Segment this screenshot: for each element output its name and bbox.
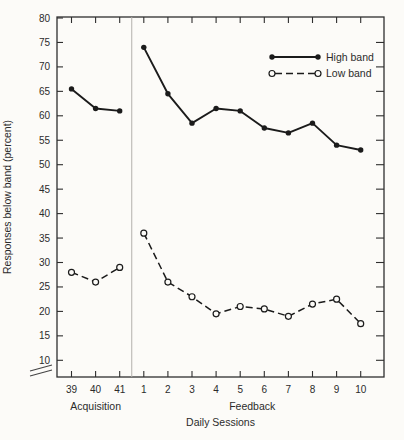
svg-text:20: 20 [39,306,51,317]
x-axis-title: Daily Sessions [186,416,255,428]
svg-text:High band: High band [326,51,374,63]
data-point [69,86,74,91]
data-point [117,108,122,113]
data-point [165,91,170,96]
svg-text:40: 40 [39,208,51,219]
svg-text:6: 6 [262,384,268,395]
svg-text:Low band: Low band [326,67,372,79]
figure: 1015202530354045505560657075803940411234… [0,0,404,440]
svg-text:Responses below band (percent): Responses below band (percent) [1,120,13,274]
data-point [358,147,363,152]
svg-text:80: 80 [39,13,51,24]
svg-text:39: 39 [66,384,78,395]
data-point [189,120,194,125]
data-point [285,313,291,319]
line-chart: 1015202530354045505560657075803940411234… [0,0,404,440]
svg-text:3: 3 [189,384,195,395]
svg-text:75: 75 [39,37,51,48]
data-point [310,120,315,125]
svg-text:55: 55 [39,135,51,146]
svg-text:45: 45 [39,184,51,195]
svg-text:5: 5 [237,384,243,395]
y-axis-title: Responses below band (percent) [1,120,13,274]
data-point [334,296,340,302]
data-point [117,264,123,270]
svg-text:70: 70 [39,61,51,72]
data-point [310,301,316,307]
svg-text:8: 8 [310,384,316,395]
svg-text:10: 10 [355,384,367,395]
chart-background [0,0,404,440]
svg-text:60: 60 [39,110,51,121]
svg-text:Daily Sessions: Daily Sessions [186,416,255,428]
data-point [141,45,146,50]
data-point [213,106,218,111]
data-point [261,306,267,312]
svg-text:7: 7 [286,384,292,395]
data-point [286,130,291,135]
svg-text:50: 50 [39,159,51,170]
svg-text:30: 30 [39,257,51,268]
data-point [93,106,98,111]
data-point [165,279,171,285]
data-point [93,279,99,285]
svg-text:25: 25 [39,281,51,292]
svg-text:Feedback: Feedback [229,400,276,412]
svg-text:10: 10 [39,355,51,366]
data-point [213,311,219,317]
data-point [189,294,195,300]
svg-text:35: 35 [39,233,51,244]
svg-text:2: 2 [165,384,171,395]
data-point [262,125,267,130]
svg-text:41: 41 [114,384,126,395]
data-point [358,321,364,327]
data-point [141,230,147,236]
svg-text:9: 9 [334,384,340,395]
svg-text:65: 65 [39,86,51,97]
svg-text:Acquisition: Acquisition [70,400,121,412]
svg-text:1: 1 [141,384,147,395]
page: { "page": { "background": "#fcfbf8", "in… [0,0,404,440]
data-point [69,269,75,275]
data-point [237,304,243,310]
svg-text:4: 4 [213,384,219,395]
svg-text:40: 40 [90,384,102,395]
svg-text:15: 15 [39,330,51,341]
data-point [334,142,339,147]
data-point [238,108,243,113]
